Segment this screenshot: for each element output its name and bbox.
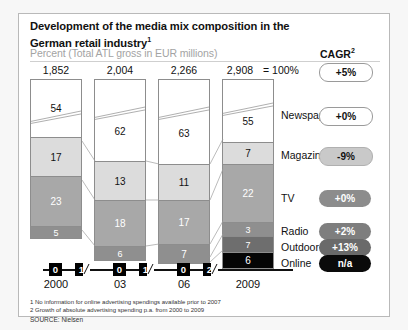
source-note: SOURCE: Nielsen	[30, 316, 83, 323]
segment-newspaper-03[interactable]: 62	[94, 79, 146, 161]
page-title: Development of the media mix composition…	[30, 20, 330, 50]
bar-column-03: 62 13 18 6	[94, 79, 146, 261]
legend-label-radio: Radio	[281, 225, 308, 237]
legend-label-tv: TV	[281, 192, 294, 204]
segment-value-magazines-2009: 7	[245, 148, 251, 159]
column-total-2009: 2,908	[211, 64, 269, 76]
segment-radio-06[interactable]: 7	[158, 244, 210, 264]
page-subtitle: Percent (Total ATL gross in EUR millions…	[30, 47, 217, 59]
axis-break-marker-06	[158, 106, 210, 120]
cagr-badge-newspaper[interactable]: +0%	[319, 107, 373, 126]
segment-magazines-06[interactable]: 11	[158, 164, 210, 200]
segment-newspaper-2009[interactable]: 55	[222, 79, 274, 142]
segment-outdoor-2009[interactable]: 7	[222, 236, 274, 252]
segment-radio-2009[interactable]: 3	[222, 222, 274, 236]
x-axis-label-2000: 2000	[27, 278, 85, 290]
segment-value-outdoor-2000[interactable]: 0	[49, 263, 62, 276]
footnote-2: 2 Growth of absolute advertising spendin…	[30, 307, 204, 313]
segment-value-magazines-03: 13	[114, 176, 125, 187]
segment-tv-06[interactable]: 17	[158, 200, 210, 244]
column-total-06: 2,266	[155, 64, 213, 76]
column-total-2000: 1,852	[27, 64, 85, 76]
segment-value-radio-03: 6	[117, 249, 122, 259]
axis-break-mark-3	[209, 263, 220, 276]
cagr-badge-magazines[interactable]: -9%	[319, 147, 373, 166]
segment-value-online-2009: 6	[245, 255, 251, 266]
legend-label-online: Online	[281, 257, 311, 269]
segment-value-tv-2009: 22	[242, 188, 253, 199]
x-axis-label-03: 03	[91, 278, 149, 290]
cagr-column-header: CAGR2	[320, 47, 355, 60]
bar-column-2000: 54 17 23 5	[30, 79, 82, 239]
screenshot-root: Development of the media mix composition…	[0, 0, 408, 330]
segment-value-outdoor-2009: 7	[245, 240, 250, 250]
axis-break-mark-2	[145, 263, 156, 276]
axis-break-marker-2009	[222, 102, 274, 116]
equals-100-percent-note: = 100%	[263, 64, 299, 76]
x-axis-label-06: 06	[155, 278, 213, 290]
footnote-1: 1 No information for online advertising …	[30, 299, 221, 305]
segment-newspaper-2000[interactable]: 54	[30, 79, 82, 137]
column-total-03: 2,004	[91, 64, 149, 76]
cagr-column-header-text: CAGR	[320, 48, 351, 60]
segment-value-outdoor-03[interactable]: 0	[113, 263, 126, 276]
cagr-badge-tv[interactable]: +0%	[319, 190, 371, 207]
segment-online-2009[interactable]: 6	[222, 252, 274, 269]
segment-value-newspaper-03: 62	[114, 126, 125, 137]
segment-magazines-2000[interactable]: 17	[30, 137, 82, 176]
segment-value-newspaper-2009: 55	[242, 116, 253, 127]
segment-value-outdoor-06[interactable]: 0	[177, 263, 190, 276]
cagr-badge-radio[interactable]: +2%	[319, 223, 371, 240]
cagr-badge-outdoor[interactable]: +13%	[319, 239, 371, 256]
cagr-header-footnote-marker: 2	[351, 47, 355, 54]
bar-column-06: 63 11 17 7	[158, 79, 210, 264]
segment-tv-03[interactable]: 18	[94, 200, 146, 246]
legend-label-outdoor: Outdoor	[281, 241, 319, 253]
segment-magazines-2009[interactable]: 7	[222, 142, 274, 164]
segment-newspaper-06[interactable]: 63	[158, 79, 210, 164]
segment-value-tv-06: 17	[178, 217, 189, 228]
axis-break-mark-1	[81, 263, 92, 276]
segment-value-radio-06: 7	[181, 249, 187, 260]
segment-tv-2000[interactable]: 23	[30, 176, 82, 226]
segment-radio-03[interactable]: 6	[94, 246, 146, 261]
segment-value-newspaper-2000: 54	[50, 103, 61, 114]
bar-column-2009: 55 7 22 3 7 6	[222, 79, 274, 269]
segment-value-newspaper-06: 63	[178, 128, 189, 139]
chart-card: Development of the media mix composition…	[18, 13, 390, 317]
segment-tv-2009[interactable]: 22	[222, 164, 274, 222]
segment-value-tv-2000: 23	[50, 196, 61, 207]
axis-break-marker-03	[94, 106, 146, 120]
page-title-footnote-marker: 1	[147, 36, 151, 43]
segment-value-tv-03: 18	[114, 218, 125, 229]
cagr-badge-total[interactable]: +5%	[319, 63, 373, 82]
segment-value-radio-2000: 5	[53, 228, 58, 238]
segment-value-magazines-2000: 17	[50, 152, 61, 163]
cagr-badge-online[interactable]: n/a	[319, 255, 371, 272]
segment-value-magazines-06: 11	[179, 177, 189, 188]
header-divider	[30, 61, 380, 62]
x-axis-label-2009: 2009	[219, 278, 277, 290]
segment-magazines-03[interactable]: 13	[94, 161, 146, 200]
segment-value-radio-2009: 3	[245, 225, 250, 235]
segment-radio-2000[interactable]: 5	[30, 226, 82, 239]
page-title-text: Development of the media mix composition…	[30, 20, 290, 49]
